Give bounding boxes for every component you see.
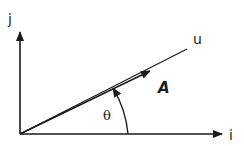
vector-a-arrow [20,71,150,134]
angle-theta-label: θ [103,108,111,123]
i-axis-label: i [229,127,233,143]
j-axis-label: j [7,11,12,27]
angle-theta-arc [113,88,128,134]
u-line-label: u [193,31,202,47]
vector-angle-diagram: j i u A θ [0,0,244,146]
vector-a-label: A [157,79,170,97]
